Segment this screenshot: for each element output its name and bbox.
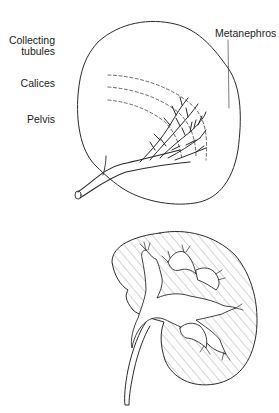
pelvis-arc (108, 100, 182, 160)
metanephros-leader-line (228, 40, 229, 108)
kidney-diagram (0, 0, 279, 413)
adult-kidney-figure (112, 231, 257, 405)
collecting-tubules-arc (108, 75, 207, 160)
metanephros-figure (75, 21, 240, 204)
ureter (125, 322, 150, 405)
metanephros-outline (78, 21, 241, 204)
